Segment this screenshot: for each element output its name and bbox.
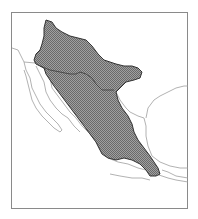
range-map — [0, 0, 198, 219]
